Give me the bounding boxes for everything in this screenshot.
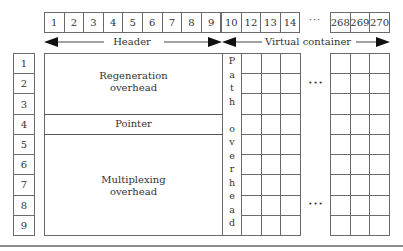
payload-byte-cell <box>261 73 282 94</box>
payload-byte-cell <box>350 73 371 94</box>
payload-byte-cell <box>369 195 390 216</box>
payload-byte-cell <box>369 134 390 155</box>
payload-byte-cell <box>261 215 282 236</box>
payload-byte-cell <box>280 73 301 94</box>
row-number-cell: 1 <box>13 53 35 74</box>
multiplexing-overhead-label: Multiplexing overhead <box>44 174 223 198</box>
grid-ellipsis-top: ••• <box>305 79 327 87</box>
payload-byte-cell <box>330 174 351 195</box>
payload-byte-cell <box>241 114 262 135</box>
path-overhead-letter: o <box>229 124 235 138</box>
regeneration-divider <box>44 114 223 115</box>
payload-byte-cell <box>280 93 301 114</box>
payload-byte-cell <box>261 195 282 216</box>
payload-byte-cell <box>280 174 301 195</box>
payload-byte-cell <box>241 215 262 236</box>
row-number-cell: 2 <box>13 73 35 94</box>
payload-byte-cell <box>369 174 390 195</box>
column-ellipsis: ··· <box>305 14 325 25</box>
column-number-cell: 14 <box>280 12 301 33</box>
column-number-cell: 270 <box>369 12 390 33</box>
payload-byte-cell <box>330 53 351 74</box>
payload-byte-cell <box>241 174 262 195</box>
path-overhead-letter: v <box>229 137 234 151</box>
path-overhead-letter: r <box>230 164 235 178</box>
column-number-cell: 1 <box>44 12 65 33</box>
multiplexing-line-1: Multiplexing <box>44 174 223 186</box>
grid-ellipsis-bottom: ••• <box>305 200 327 208</box>
path-overhead-letter: e <box>229 151 235 165</box>
payload-byte-cell <box>241 93 262 114</box>
payload-byte-cell <box>369 93 390 114</box>
payload-byte-cell <box>369 53 390 74</box>
row-number-cell: 7 <box>13 174 35 195</box>
multiplexing-line-2: overhead <box>44 186 223 198</box>
payload-byte-cell <box>350 195 371 216</box>
payload-byte-cell <box>350 174 371 195</box>
payload-byte-cell <box>330 73 351 94</box>
column-number-cell: 8 <box>181 12 202 33</box>
column-number-cell: 13 <box>260 12 281 33</box>
payload-byte-cell <box>350 114 371 135</box>
path-overhead-letter: a <box>229 205 235 219</box>
payload-byte-cell <box>330 134 351 155</box>
payload-byte-cell <box>241 154 262 175</box>
column-number-cell: 2 <box>64 12 85 33</box>
pointer-label: Pointer <box>44 118 223 130</box>
payload-byte-cell <box>241 73 262 94</box>
payload-byte-cell <box>330 154 351 175</box>
path-overhead-letter: t <box>230 83 234 97</box>
payload-byte-cell <box>369 154 390 175</box>
row-number-cell: 9 <box>13 215 35 236</box>
payload-byte-cell <box>241 53 262 74</box>
path-overhead-letter: h <box>229 178 235 192</box>
payload-byte-cell <box>261 174 282 195</box>
regeneration-overhead-label: Regeneration overhead <box>44 70 223 94</box>
payload-byte-cell <box>241 195 262 216</box>
column-number-cell: 5 <box>122 12 143 33</box>
path-overhead-letter: h <box>229 97 235 111</box>
column-number-cell: 10 <box>221 12 242 33</box>
column-number-cell: 6 <box>142 12 163 33</box>
payload-byte-cell <box>261 93 282 114</box>
payload-byte-cell <box>280 195 301 216</box>
payload-byte-cell <box>241 134 262 155</box>
payload-byte-cell <box>280 134 301 155</box>
payload-byte-cell <box>330 195 351 216</box>
column-number-cell: 4 <box>103 12 124 33</box>
payload-byte-cell <box>280 154 301 175</box>
row-number-cell: 3 <box>13 93 35 114</box>
row-number-cell: 8 <box>13 195 35 216</box>
row-number-cell: 4 <box>13 114 35 135</box>
payload-byte-cell <box>261 154 282 175</box>
pointer-divider <box>44 134 223 135</box>
payload-byte-cell <box>369 215 390 236</box>
payload-byte-cell <box>280 114 301 135</box>
column-number-cell: 9 <box>201 12 222 33</box>
column-number-cell: 269 <box>350 12 371 33</box>
payload-byte-cell <box>261 53 282 74</box>
regeneration-line-2: overhead <box>44 82 223 94</box>
vc-span-label: Virtual container <box>258 36 358 48</box>
row-number-cell: 6 <box>13 154 35 175</box>
path-overhead-letter: a <box>229 70 235 84</box>
payload-byte-cell <box>369 73 390 94</box>
payload-byte-cell <box>350 215 371 236</box>
path-overhead-letter: d <box>229 218 235 232</box>
payload-byte-cell <box>330 215 351 236</box>
payload-byte-cell <box>280 53 301 74</box>
bottom-rule <box>0 245 403 247</box>
payload-byte-cell <box>330 93 351 114</box>
column-number-cell: 3 <box>83 12 104 33</box>
payload-byte-cell <box>261 134 282 155</box>
payload-byte-cell <box>330 114 351 135</box>
payload-byte-cell <box>350 53 371 74</box>
payload-byte-cell <box>350 154 371 175</box>
payload-byte-cell <box>350 134 371 155</box>
column-number-cell: 12 <box>241 12 262 33</box>
column-number-cell: 7 <box>162 12 183 33</box>
regeneration-line-1: Regeneration <box>44 70 223 82</box>
header-span-label: Header <box>90 36 174 48</box>
payload-byte-cell <box>280 215 301 236</box>
payload-byte-cell <box>350 93 371 114</box>
